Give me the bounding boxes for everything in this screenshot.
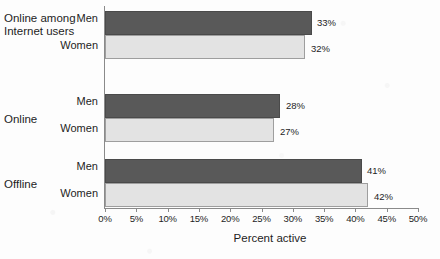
x-axis-tick-label: 25%	[252, 213, 270, 224]
x-axis-tick	[387, 208, 388, 212]
group-label-line-2: Internet users	[4, 25, 76, 38]
plot-area: 33% 32% 28% 27% 41% 42%	[105, 6, 418, 208]
bar-men-offline	[105, 159, 362, 183]
series-label-men-group3: Men	[4, 160, 104, 172]
x-axis-tick	[355, 208, 356, 212]
x-axis-tick-label: 5%	[130, 213, 143, 224]
x-axis-tick	[418, 208, 419, 212]
x-axis-tick-label: 45%	[377, 213, 395, 224]
x-axis-tick-label: 15%	[190, 213, 208, 224]
bar-women-online	[105, 118, 274, 142]
x-axis-tick-label: 20%	[221, 213, 239, 224]
x-axis-title: Percent active	[0, 232, 440, 244]
value-label-women-group1: 32%	[311, 43, 330, 54]
x-axis-tick	[293, 208, 294, 212]
series-label-women-group1: Women	[4, 39, 104, 51]
x-axis-tick-label: 50%	[409, 213, 427, 224]
series-label-women-group2: Women	[4, 122, 104, 134]
category-label-column: Online among Internet users Men Women On…	[0, 0, 104, 209]
x-axis-tick-label: 40%	[346, 213, 364, 224]
series-label-men-group1: Men	[4, 12, 104, 24]
bar-men-online-among-internet-users	[105, 11, 312, 35]
value-label-women-group2: 27%	[280, 126, 299, 137]
x-axis-tick	[230, 208, 231, 212]
x-axis-tick-label: 30%	[284, 213, 302, 224]
bar-chart: Online among Internet users Men Women On…	[0, 0, 440, 259]
series-label-women-group3: Women	[4, 187, 104, 199]
value-label-women-group3: 42%	[374, 191, 393, 202]
bar-women-online-among-internet-users	[105, 35, 305, 59]
x-axis-tick	[136, 208, 137, 212]
value-label-men-group2: 28%	[286, 100, 305, 111]
value-label-men-group1: 33%	[317, 17, 336, 28]
value-label-men-group3: 41%	[367, 165, 386, 176]
x-axis-tick-label: 0%	[98, 213, 111, 224]
x-axis-tick	[105, 208, 106, 212]
x-axis-tick	[262, 208, 263, 212]
bar-men-online	[105, 94, 280, 118]
x-axis-tick-label: 35%	[315, 213, 333, 224]
x-axis-tick	[168, 208, 169, 212]
bar-women-offline	[105, 183, 368, 207]
x-axis-tick	[324, 208, 325, 212]
x-axis-tick	[199, 208, 200, 212]
x-axis-tick-label: 10%	[158, 213, 176, 224]
series-label-men-group2: Men	[4, 95, 104, 107]
